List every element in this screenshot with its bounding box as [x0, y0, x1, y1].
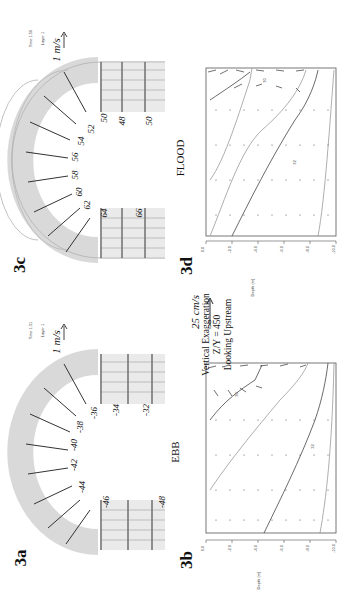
ytick: -4.0	[253, 246, 258, 253]
panel-3d-plot	[206, 68, 336, 244]
ytick: -2.0	[227, 545, 232, 552]
time-label-3a: Time 1.31	[28, 322, 33, 340]
condition-label-flood: FLOOD	[174, 140, 186, 177]
contour-label: 56	[70, 153, 80, 162]
panel-label-3d: 3d	[177, 257, 197, 275]
contour-label: 60	[74, 188, 84, 197]
contour-label: -46	[101, 496, 111, 508]
contour-label: 32	[310, 444, 315, 448]
contour-label: 50	[144, 117, 154, 126]
ytick: 0.0	[200, 247, 205, 253]
condition-label-ebb: EBB	[169, 441, 181, 462]
panel-label-3a: 3a	[11, 550, 31, 567]
contour-label: 52	[86, 125, 96, 134]
time-label-3c: Time 1.56	[28, 30, 33, 48]
scale-label-3c: 1 m/s	[50, 38, 62, 62]
contour-label: 62	[82, 201, 92, 210]
figure-3: 3c 3a 3d 3b Time 1.56 Layer 1 1 m/s Time…	[0, 0, 361, 598]
panel-label-3c: 3c	[10, 257, 30, 273]
scale-label-25cms: 25 cm/s	[189, 295, 201, 329]
ytick: -2.0	[227, 246, 232, 253]
ytick: -4.0	[253, 545, 258, 552]
contour-label: 50	[99, 114, 109, 123]
contour-label: 48	[117, 117, 127, 126]
panel-3b-plot	[206, 363, 336, 543]
contour-label: -38	[75, 421, 85, 433]
annotation-block: Vertical Exaggeration Z/Y = 450 Looking …	[201, 293, 234, 376]
contour-label: 32	[292, 160, 297, 164]
ytick: -6.0	[279, 246, 284, 253]
contour-label: -44	[77, 481, 87, 493]
ytick: -10.0	[331, 544, 336, 553]
contour-label: -34	[111, 404, 121, 416]
contour-label: -36	[89, 407, 99, 419]
ytick: 0.0	[200, 546, 205, 552]
annotation-line: Looking Upstream	[223, 293, 234, 376]
ytick: -8.0	[305, 246, 310, 253]
contour-label: -40	[69, 439, 79, 451]
contour-label: 66	[134, 209, 144, 218]
layer-label-3c: Layer 1	[40, 32, 45, 45]
ytick: -6.0	[279, 545, 284, 552]
ylabel-3b: Depth (m)	[256, 572, 261, 590]
contour-label: 54	[76, 137, 86, 146]
contour-label: 30	[234, 392, 239, 396]
annotation-line: Z/Y = 450	[212, 293, 223, 376]
layer-label-3a: Layer 1	[40, 324, 45, 337]
annotation-line: Vertical Exaggeration	[201, 293, 212, 376]
contour-label: -32	[141, 404, 151, 416]
contour-label: 30	[262, 78, 267, 82]
ytick: -10.0	[331, 245, 336, 254]
ytick: -8.0	[305, 545, 310, 552]
plan-view-graphics	[0, 0, 361, 598]
contour-label: -48	[157, 496, 167, 508]
contour-label: -42	[69, 459, 79, 471]
contour-label: 64	[99, 209, 109, 218]
panel-label-3b: 3b	[177, 551, 197, 569]
ylabel-3d: Depth (m)	[250, 279, 255, 297]
contour-label: 58	[70, 171, 80, 180]
scale-label-3a: 1 m/s	[50, 330, 62, 354]
